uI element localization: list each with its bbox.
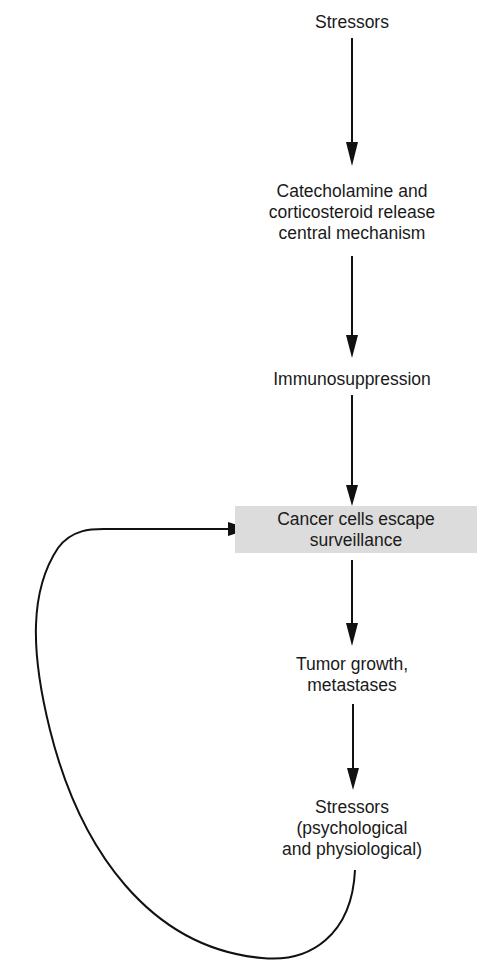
- node-cancer-escape: Cancer cells escape surveillance: [235, 506, 477, 553]
- node-text: Stressors: [282, 797, 422, 818]
- arrow-tumor-to-stressors: [347, 704, 359, 790]
- node-text: corticosteroid release: [269, 202, 435, 223]
- node-text: Cancer cells escape: [243, 509, 469, 530]
- feedback-loop-arrow: [36, 522, 355, 959]
- node-tumor-growth: Tumor growth, metastases: [296, 654, 408, 696]
- node-text: and physiological): [282, 839, 422, 860]
- node-text: metastases: [296, 675, 408, 696]
- arrow-cancer-to-tumor: [346, 560, 358, 646]
- arrow-immunosuppression-to-cancer: [346, 395, 358, 506]
- node-text: (psychological: [282, 818, 422, 839]
- node-text: Catecholamine and: [269, 181, 435, 202]
- node-text: Immunosuppression: [273, 369, 431, 390]
- node-stressors-psych-phys: Stressors (psychological and physiologic…: [282, 797, 422, 860]
- arrow-stressors-to-release: [346, 38, 358, 166]
- node-text: Stressors: [315, 12, 389, 33]
- node-text: central mechanism: [269, 223, 435, 244]
- node-immunosuppression: Immunosuppression: [273, 369, 431, 390]
- node-text: surveillance: [243, 530, 469, 551]
- arrow-release-to-immunosuppression: [346, 256, 358, 358]
- node-hormone-release: Catecholamine and corticosteroid release…: [269, 181, 435, 244]
- node-stressors: Stressors: [315, 12, 389, 33]
- node-text: Tumor growth,: [296, 654, 408, 675]
